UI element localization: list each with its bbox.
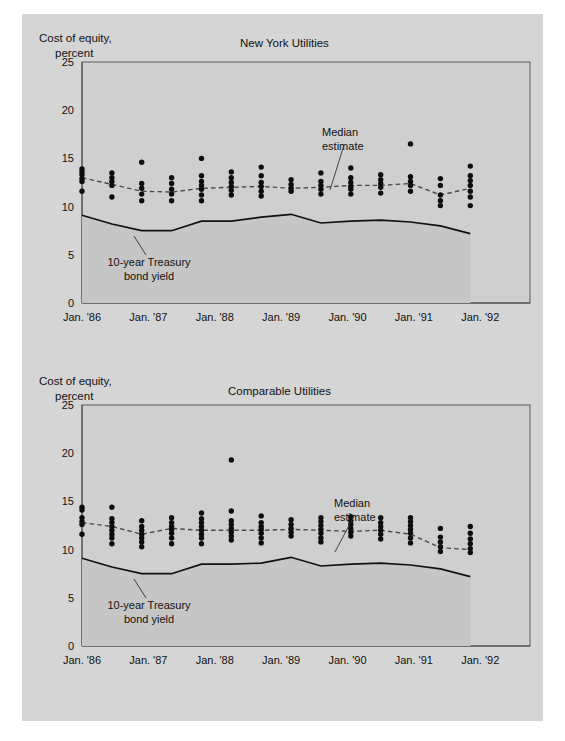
scatter-dot [139,191,144,196]
scatter-dot [109,170,114,175]
scatter-dot [408,531,413,536]
scatter-dot [438,526,443,531]
scatter-dot [348,165,353,170]
y-tick-label: 15 [62,152,74,164]
scatter-dot [229,508,234,513]
scatter-dot [438,198,443,203]
y-tick-label: 5 [68,249,74,261]
scatter-dot [169,531,174,536]
median-annotation-line1: Median [334,497,370,509]
scatter-dot [139,181,144,186]
scatter-dot [318,531,323,536]
scatter-dot [468,163,473,168]
x-tick-label: Jan. '91 [395,311,433,323]
scatter-dot [259,531,264,536]
scatter-dot [199,192,204,197]
figure-page: Cost of equity, percent New York Utiliti… [0,0,565,741]
scatter-dot [378,536,383,541]
scatter-dot [408,174,413,179]
scatter-dot [288,517,293,522]
scatter-dot [408,141,413,146]
scatter-dot [109,535,114,540]
y-tick-label: 10 [62,201,74,213]
scatter-dot [348,191,353,196]
scatter-dot [169,535,174,540]
y-tick-label: 0 [68,640,74,652]
scatter-dot [229,192,234,197]
scatter-dot [199,541,204,546]
scatter-dot [139,160,144,165]
x-tick-label: Jan. '90 [328,654,366,666]
scatter-dot [468,524,473,529]
scatter-dot [438,183,443,188]
chart-title-bottom: Comparable Utilities [228,385,331,397]
scatter-dot [169,175,174,180]
chart-bottom-axis-title: Cost of equity, percent [39,375,112,402]
treasury-annotation-line1: 10-year Treasury [107,599,191,611]
scatter-dot [259,189,264,194]
scatter-dot [109,505,114,510]
x-tick-label: Jan. '89 [262,311,300,323]
scatter-dot [109,194,114,199]
y-tick-label: 0 [68,297,74,309]
scatter-dot [468,194,473,199]
scatter-dot [229,188,234,193]
scatter-dot [79,532,84,537]
scatter-dot [79,507,84,512]
scatter-dot [139,518,144,523]
chart-svg-top: Cost of equity, percent New York Utiliti… [22,14,543,354]
scatter-dot [79,189,84,194]
y-axis-title-line1: Cost of equity, [39,32,112,44]
scatter-dot [288,533,293,538]
x-tick-label: Jan. '87 [129,311,167,323]
scatter-dot [169,187,174,192]
scatter-dot [408,183,413,188]
scatter-dot [408,189,413,194]
scatter-dot [438,539,443,544]
y-tick-label: 20 [62,447,74,459]
scatter-dot [259,184,264,189]
scatter-dot [169,191,174,196]
scatter-dot [468,183,473,188]
scatter-dot [438,544,443,549]
scatter-dot [378,532,383,537]
x-tick-label: Jan. '89 [262,654,300,666]
y-axis-title-line1: Cost of equity, [39,375,112,387]
scatter-dot [468,536,473,541]
scatter-dot [259,164,264,169]
scatter-dot [348,533,353,538]
y-tick-label: 25 [62,399,74,411]
x-tick-label: Jan. '88 [196,311,234,323]
figure-frame: Cost of equity, percent New York Utiliti… [22,14,543,721]
scatter-dot [438,176,443,181]
scatter-dot [348,187,353,192]
x-tick-label: Jan. '86 [63,654,101,666]
y-tick-label: 15 [62,495,74,507]
chart-svg-bottom: Cost of equity, percent Comparable Utili… [22,357,543,697]
scatter-dot [229,457,234,462]
treasury-annotation-line2: bond yield [124,613,174,625]
scatter-dot [468,541,473,546]
x-tick-label: Jan. '86 [63,311,101,323]
scatter-dot [408,540,413,545]
scatter-dot [199,187,204,192]
scatter-dot [468,550,473,555]
scatter-dot [169,181,174,186]
scatter-dot [199,198,204,203]
scatter-dot [438,549,443,554]
scatter-dot [199,156,204,161]
scatter-dot [468,178,473,183]
scatter-dot [318,187,323,192]
scatter-dot [259,535,264,540]
chart-new-york-utilities: Cost of equity, percent New York Utiliti… [22,14,543,354]
y-tick-label: 20 [62,104,74,116]
x-tick-label: Jan. '88 [196,654,234,666]
scatter-dot [139,198,144,203]
treasury-annotation-line1: 10-year Treasury [107,256,191,268]
plot-area-top: 0510152025Jan. '86Jan. '87Jan. '88Jan. '… [62,56,530,323]
scatter-dot [139,539,144,544]
scatter-dot [259,513,264,518]
scatter-dot [468,189,473,194]
scatter-dot [318,170,323,175]
y-tick-label: 10 [62,544,74,556]
